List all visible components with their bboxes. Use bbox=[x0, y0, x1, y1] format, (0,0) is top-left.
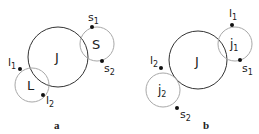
caption-a: a bbox=[54, 119, 60, 131]
point-l1 bbox=[18, 67, 22, 71]
label-l2-a: l2 bbox=[46, 94, 54, 109]
panel-b: J j1 j2 l1 s1 l2 s2 b bbox=[146, 7, 253, 131]
point-l1-b bbox=[230, 23, 234, 27]
label-s1-b: s1 bbox=[242, 62, 253, 77]
point-l2-b bbox=[159, 66, 163, 70]
label-s: S bbox=[92, 37, 100, 52]
diagram-canvas: J S L s1 s2 l1 l2 a J j1 j2 l1 bbox=[0, 0, 259, 134]
label-l2-b: l2 bbox=[150, 54, 158, 69]
point-l2 bbox=[41, 93, 45, 97]
label-j2: j2 bbox=[157, 83, 166, 99]
caption-b: b bbox=[203, 119, 209, 131]
panel-a: J S L s1 s2 l1 l2 a bbox=[8, 11, 115, 131]
label-s2-a: s2 bbox=[104, 62, 115, 77]
label-j1: j1 bbox=[229, 37, 238, 53]
label-l1-a: l1 bbox=[8, 56, 16, 71]
label-j-b: J bbox=[194, 54, 199, 69]
label-l1-b: l1 bbox=[229, 7, 237, 22]
label-s1-a: s1 bbox=[88, 11, 99, 26]
label-s2-b: s2 bbox=[180, 108, 191, 123]
label-l: L bbox=[27, 78, 35, 93]
point-s2-b bbox=[175, 106, 179, 110]
label-j-a: J bbox=[54, 50, 59, 65]
diagram-svg: J S L s1 s2 l1 l2 a J j1 j2 l1 bbox=[0, 0, 259, 134]
